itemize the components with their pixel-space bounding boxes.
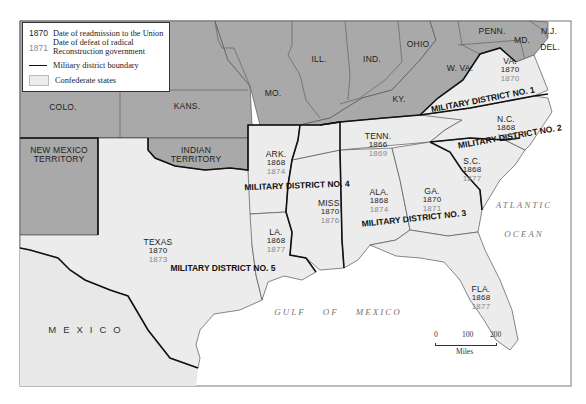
legend-defeat-label-2: Reconstruction government: [53, 48, 145, 57]
map-legend: 1870 Date of readmission to the Union 18…: [22, 22, 170, 92]
ala-defeated: 1874: [369, 206, 388, 215]
reconstruction-map: 1870 Date of readmission to the Union 18…: [0, 0, 586, 404]
scale-tick-200: 200: [490, 330, 501, 339]
legend-boundary: Military district boundary: [29, 61, 139, 70]
state-label-tenn: TENN. 1866 1869: [365, 132, 392, 159]
label-kans: KANS.: [174, 102, 201, 111]
label-mo: MO.: [265, 89, 282, 98]
la-defeated: 1877: [267, 246, 286, 255]
state-label-sc: S.C. 1868 1877: [463, 157, 482, 184]
scale-unit: Miles: [456, 347, 473, 356]
label-colo: COLO.: [49, 103, 76, 112]
scale-tick-0: 0: [434, 330, 438, 339]
legend-defeat: 1871 Date of defeat of radical Reconstru…: [29, 39, 145, 56]
state-label-ark: ARK. 1868 1874: [266, 150, 287, 177]
ark-defeated: 1874: [266, 168, 287, 177]
label-ind: IND.: [363, 55, 381, 64]
state-label-va: VA. 1870 1870: [501, 57, 520, 84]
state-label-texas: TEXAS 1870 1873: [144, 238, 173, 265]
state-label-miss: MISS. 1870 1876: [318, 199, 342, 226]
legend-readmission-label: Date of readmission to the Union: [53, 29, 163, 38]
scale-bar: 0 100 200 Miles: [430, 330, 510, 360]
legend-boundary-label: Military district boundary: [53, 61, 139, 70]
legend-readmission: 1870 Date of readmission to the Union: [29, 28, 163, 38]
tenn-defeated: 1869: [365, 150, 392, 159]
label-atlantic: ATLANTIC: [496, 201, 553, 211]
label-mexico: MEXICO: [48, 325, 127, 335]
label-ky: KY.: [392, 95, 405, 104]
legend-defeat-key: 1871: [29, 43, 53, 53]
confederate-swatch: [29, 75, 49, 86]
label-ohio: OHIO: [407, 40, 430, 49]
legend-readmission-key: 1870: [29, 28, 53, 38]
label-ocean: OCEAN: [504, 230, 544, 240]
legend-confederate: Confederate states: [29, 75, 116, 86]
sc-defeated: 1877: [463, 175, 482, 184]
fla-defeated: 1877: [472, 303, 491, 312]
military-district-5: MILITARY DISTRICT NO. 5: [170, 264, 275, 273]
label-ill: ILL.: [312, 55, 327, 64]
label-del: DEL.: [540, 43, 560, 52]
label-indian-territory: INDIAN TERRITORY: [171, 146, 222, 165]
scale-line: [435, 343, 497, 346]
label-new-mexico: NEW MEXICO TERRITORY: [30, 146, 88, 165]
legend-confederate-label: Confederate states: [55, 76, 116, 85]
state-label-ala: ALA. 1868 1874: [369, 188, 388, 215]
state-label-ga: GA. 1870 1871: [423, 187, 442, 214]
texas-defeated: 1873: [144, 256, 173, 265]
boundary-line-symbol: [29, 65, 47, 66]
label-gulf-of-mexico: GULF OF MEXICO: [274, 308, 402, 318]
label-nj: N.J.: [541, 27, 557, 36]
label-md: MD.: [514, 36, 530, 45]
miss-defeated: 1876: [318, 217, 342, 226]
label-penn: PENN.: [479, 27, 506, 36]
state-label-fla: FLA. 1868 1877: [472, 285, 491, 312]
state-label-la: LA. 1868 1877: [267, 228, 286, 255]
label-wva: W. VA.: [447, 64, 474, 73]
va-defeated: 1870: [501, 75, 520, 84]
scale-tick-100: 100: [462, 330, 473, 339]
